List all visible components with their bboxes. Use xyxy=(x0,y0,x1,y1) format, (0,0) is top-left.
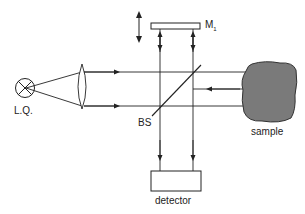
sample-label: sample xyxy=(251,127,283,137)
mirror-icon xyxy=(151,23,200,29)
vertical-beams xyxy=(160,29,193,171)
detector-label: detector xyxy=(155,196,191,206)
lamp-icon xyxy=(16,79,35,98)
beamsplitter-label: BS xyxy=(138,118,151,128)
beamsplitter-icon xyxy=(152,65,201,116)
interferometer-diagram xyxy=(0,0,305,214)
detector-icon xyxy=(151,171,201,191)
lamp-label: L.Q. xyxy=(14,106,33,116)
mirror-label-subscript: 1 xyxy=(213,26,216,32)
double-arrow-icon xyxy=(136,11,142,43)
sample-icon xyxy=(242,62,297,122)
mirror-label: M1 xyxy=(205,20,217,32)
lens-icon xyxy=(78,64,86,109)
